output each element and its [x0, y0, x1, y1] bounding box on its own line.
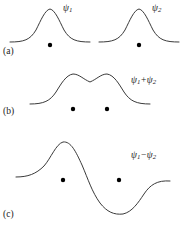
psi1-curve [10, 9, 90, 42]
nucleus-dot [48, 43, 52, 47]
nucleus-dot [137, 43, 141, 47]
psi2-curve [99, 9, 179, 42]
psi-difference-label: ψ1−ψ2 [131, 150, 156, 160]
psi-subscript: 1 [69, 6, 72, 13]
panel-label-a: (a) [3, 46, 14, 56]
wavefunction-figure: (a) (b) (c) ψ1 ψ2 ψ1+ψ2 ψ1−ψ2 [0, 0, 184, 232]
psi-subscript: 2 [153, 153, 156, 160]
panel-label-b: (b) [3, 106, 14, 116]
psi1-label: ψ1 [63, 3, 72, 13]
nucleus-dot [61, 178, 65, 182]
psi-subscript: 2 [153, 78, 156, 85]
panel-label-c: (c) [3, 209, 14, 219]
nucleus-dot [105, 107, 109, 111]
psi-sum-label: ψ1+ψ2 [131, 75, 156, 85]
nucleus-dot [117, 178, 121, 182]
figure-canvas [0, 0, 184, 232]
psi2-label: ψ2 [152, 3, 161, 13]
psi-subscript: 2 [158, 6, 161, 13]
panel-a-group [10, 9, 179, 47]
nucleus-dot [71, 107, 75, 111]
